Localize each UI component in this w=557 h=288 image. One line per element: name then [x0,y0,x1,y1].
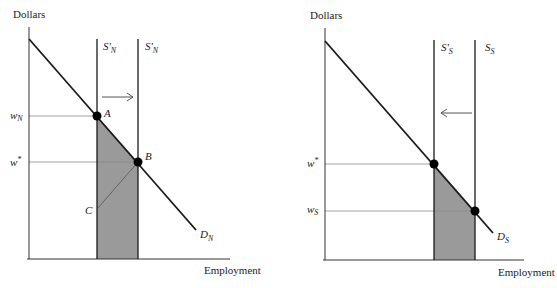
panel-south: Dollars Employment S'S SS DS w* wS [307,9,555,278]
point-south-1 [430,160,439,169]
demand-label-north: DN [199,228,214,243]
y-axis-label-south: Dollars [310,9,342,21]
wage-label-wn: wN [10,109,23,123]
wage-label-ws: wS [307,203,318,217]
panel-north: Dollars Employment S'N S'N DN wN w* A B … [10,8,261,276]
supply-label-north-2: S'N [145,40,159,55]
shaded-area-south [434,164,475,260]
point-south-2 [471,207,480,216]
point-label-b: B [145,150,152,162]
y-axis-label-north: Dollars [13,8,45,20]
supply-label-north-1: S'N [103,40,117,55]
point-label-a: A [103,107,111,119]
arrow-right-icon [102,93,133,101]
point-a [93,112,102,121]
arrow-left-icon [441,109,472,117]
supply-label-south-2: SS [485,41,495,56]
labor-market-diagram: Dollars Employment S'N S'N DN wN w* A B … [0,0,557,288]
wage-label-wstar-south: w* [307,156,318,169]
wage-label-wstar-north: w* [10,155,21,168]
demand-line-south [325,41,493,233]
point-label-c: C [85,204,93,216]
x-axis-label-north: Employment [204,264,261,276]
demand-label-south: DS [496,230,509,245]
x-axis-label-south: Employment [498,266,555,278]
point-b [134,158,143,167]
shaded-area-north [97,116,138,259]
supply-label-south-1: S'S [441,41,453,56]
